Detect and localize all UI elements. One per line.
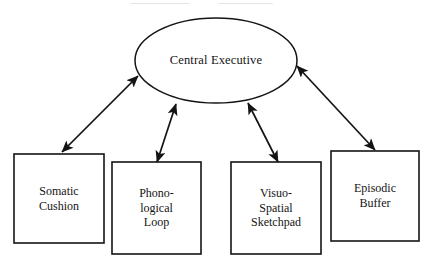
central-executive-ellipse[interactable]: [135, 18, 297, 103]
connector-phonological-loop[interactable]: [157, 104, 176, 162]
diagram-canvas: Central Executive Somatic Cushion Phono-…: [0, 0, 435, 268]
box-somatic-cushion[interactable]: [14, 154, 104, 243]
diagram-vector-layer: [0, 0, 435, 268]
box-visuo-spatial-sketchpad[interactable]: [231, 162, 321, 254]
box-episodic-buffer[interactable]: [331, 151, 419, 241]
connector-somatic-cushion[interactable]: [62, 76, 138, 152]
connector-visuo-spatial-sketchpad[interactable]: [248, 103, 278, 162]
box-phonological-loop[interactable]: [112, 162, 201, 254]
connector-episodic-buffer[interactable]: [297, 66, 375, 150]
